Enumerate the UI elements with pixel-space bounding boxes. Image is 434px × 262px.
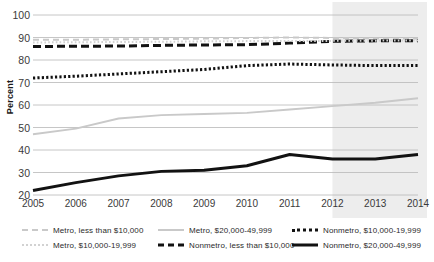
legend-item-label: Metro, less than $10,000 bbox=[53, 226, 143, 235]
x-tick-label: 2008 bbox=[138, 198, 184, 209]
solid-line-dark-icon bbox=[292, 240, 318, 250]
solid-line-light-icon bbox=[158, 225, 184, 235]
dashed-line-dark-icon bbox=[158, 240, 184, 250]
x-tick-label: 2014 bbox=[395, 198, 434, 209]
x-tick-label: 2010 bbox=[224, 198, 270, 209]
legend-item[interactable]: Metro, $20,000-49,999 bbox=[158, 224, 272, 236]
legend-item-label: Metro, $20,000-49,999 bbox=[189, 226, 272, 235]
x-tick-label: 2007 bbox=[96, 198, 142, 209]
legend-item[interactable]: Nonmetro, $10,000-19,999 bbox=[292, 224, 421, 236]
x-tick-label: 2013 bbox=[352, 198, 398, 209]
dotted-line-dark-icon bbox=[292, 225, 318, 235]
chart-legend: Metro, less than $10,000Metro, $10,000-1… bbox=[0, 224, 427, 258]
legend-item[interactable]: Nonmetro, less than $10,000 bbox=[158, 239, 294, 251]
x-tick-label: 2006 bbox=[53, 198, 99, 209]
legend-item[interactable]: Metro, less than $10,000 bbox=[22, 224, 143, 236]
legend-item-label: Nonmetro, $10,000-19,999 bbox=[323, 226, 421, 235]
dotted-line-light-icon bbox=[22, 240, 48, 250]
legend-item[interactable]: Nonmetro, $20,000-49,999 bbox=[292, 239, 421, 251]
dashed-line-light-icon bbox=[22, 225, 48, 235]
legend-item-label: Metro, $10,000-19,999 bbox=[53, 241, 136, 250]
legend-item-label: Nonmetro, $20,000-49,999 bbox=[323, 241, 421, 250]
x-tick-label: 2012 bbox=[309, 198, 355, 209]
x-tick-label: 2011 bbox=[267, 198, 313, 209]
legend-item-label: Nonmetro, less than $10,000 bbox=[189, 241, 294, 250]
x-tick-label: 2009 bbox=[181, 198, 227, 209]
forecast-shading bbox=[332, 2, 427, 218]
x-tick-label: 2005 bbox=[10, 198, 56, 209]
legend-item[interactable]: Metro, $10,000-19,999 bbox=[22, 239, 136, 251]
